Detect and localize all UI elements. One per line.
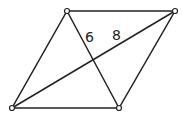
label-short-segment: 6 xyxy=(85,29,94,45)
label-long-segment: 8 xyxy=(112,27,121,43)
parallelogram-diagram: 6 8 xyxy=(0,0,182,119)
vertex-bottom-left xyxy=(10,106,15,111)
vertex-top-left xyxy=(65,9,70,14)
vertex-bottom-right xyxy=(117,106,122,111)
vertex-top-right xyxy=(173,9,178,14)
diagonal-long xyxy=(12,11,175,108)
